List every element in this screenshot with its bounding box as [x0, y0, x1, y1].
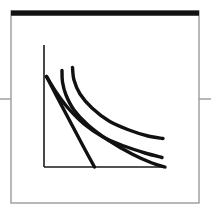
canvas-background	[0, 0, 211, 213]
figure-screenshot	[0, 0, 211, 213]
figure-canvas	[0, 0, 211, 213]
